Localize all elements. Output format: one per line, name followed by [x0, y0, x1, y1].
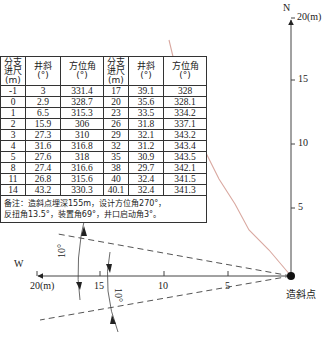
cell: 32.4 [129, 174, 164, 185]
table-row: 527.63183530.9343.5 [1, 152, 207, 163]
cell: 330.3 [61, 185, 104, 196]
table-note: 备注：造斜点埋深155m，设计方位角270°，反扭角13.5°，装置角69°，井… [1, 196, 207, 223]
cell: 318 [61, 152, 104, 163]
cell: 32.4 [129, 185, 164, 196]
cell: 31.8 [129, 119, 164, 130]
west-ticks [37, 271, 228, 276]
cell: 40.1 [104, 185, 129, 196]
header-branch-footage-left: 分支 进尺 (m) [1, 57, 26, 86]
cell: 343.5 [164, 152, 207, 163]
header-branch-footage-right: 分支 进尺 (m) [104, 57, 129, 86]
west-tick-15: 15 [94, 280, 104, 291]
cell: 43.2 [26, 185, 61, 196]
west-tick-5: 5 [225, 280, 230, 291]
cell: 334.2 [164, 108, 207, 119]
table-row: -13331.41739.1328 [1, 86, 207, 97]
cell: 27.6 [26, 152, 61, 163]
west-tick-10: 10 [158, 280, 168, 291]
cell: 17 [104, 86, 129, 97]
table-note-row: 备注：造斜点埋深155m，设计方位角270°，反扭角13.5°，装置角69°，井… [1, 196, 207, 223]
north-ticks [291, 18, 295, 208]
cell: 342.1 [164, 163, 207, 174]
cell: 23 [104, 108, 129, 119]
cell: 316.6 [61, 163, 104, 174]
cell: 328.7 [61, 97, 104, 108]
cell: 39.1 [129, 86, 164, 97]
cell: 306 [61, 119, 104, 130]
table-row: 827.4316.63829.7342.1 [1, 163, 207, 174]
west-label: W [14, 258, 23, 269]
table-row: 16.5315.32333.5334.2 [1, 108, 207, 119]
table-row: 215.93062631.8337.1 [1, 119, 207, 130]
cell: 341.3 [164, 185, 207, 196]
lower-arc-arrow-icon [106, 264, 112, 273]
cell: 29.7 [129, 163, 164, 174]
cell: 35.6 [129, 97, 164, 108]
cell: 316.8 [61, 141, 104, 152]
cell: 2 [1, 119, 26, 130]
cell: 8 [1, 163, 26, 174]
cell: 31.6 [26, 141, 61, 152]
cell: 315.3 [61, 108, 104, 119]
cell: 26 [104, 119, 129, 130]
cell: 4 [1, 141, 26, 152]
cell: 6.5 [26, 108, 61, 119]
cell: 341.5 [164, 174, 207, 185]
cell: 31.2 [129, 141, 164, 152]
cell: 38 [104, 163, 129, 174]
west-max-label: 20(m) [30, 280, 54, 291]
cell: 33.5 [129, 108, 164, 119]
header-azimuth-left: 方位角(°) [61, 57, 104, 86]
kickoff-point-label: 造斜点 [286, 286, 316, 301]
table-row: 327.33102932.1343.2 [1, 130, 207, 141]
cell: 27.3 [26, 130, 61, 141]
cell: -1 [1, 86, 26, 97]
header-azimuth-right: 方位角(°) [164, 57, 207, 86]
upper-angle-label: 10° [56, 244, 67, 258]
cell: 310 [61, 130, 104, 141]
cell: 5 [1, 152, 26, 163]
cell: 40 [104, 174, 129, 185]
north-tick-15: 15 [298, 73, 308, 84]
north-max-label: 20(m) [297, 11, 321, 22]
table-header-row: 分支 进尺 (m) 井斜(°) 方位角(°) 分支 进尺 (m) 井斜(°) 方… [1, 57, 207, 86]
cell: 1 [1, 108, 26, 119]
cell: 3 [26, 86, 61, 97]
cell: 315.6 [61, 174, 104, 185]
cell: 328.1 [164, 97, 207, 108]
lower-angle-label: 10° [113, 288, 124, 302]
north-tick-5: 5 [298, 201, 303, 212]
upper-tolerance-line [58, 234, 291, 276]
cell: 0 [1, 97, 26, 108]
cell: 343.4 [164, 141, 207, 152]
kickoff-point-marker [287, 272, 295, 280]
cell: 2.9 [26, 97, 61, 108]
table-row: 431.6316.83231.2343.4 [1, 141, 207, 152]
cell: 328 [164, 86, 207, 97]
cell: 14 [1, 185, 26, 196]
cell: 15.9 [26, 119, 61, 130]
cell: 26.8 [26, 174, 61, 185]
table-row: 02.9328.72035.6328.1 [1, 97, 207, 108]
cell: 331.4 [61, 86, 104, 97]
header-inclination-right: 井斜(°) [129, 57, 164, 86]
cell: 337.1 [164, 119, 207, 130]
cell: 11 [1, 174, 26, 185]
cell: 27.4 [26, 163, 61, 174]
survey-data-table: 分支 进尺 (m) 井斜(°) 方位角(°) 分支 进尺 (m) 井斜(°) 方… [0, 56, 207, 223]
cell: 343.2 [164, 130, 207, 141]
cell: 32 [104, 141, 129, 152]
header-inclination-left: 井斜(°) [26, 57, 61, 86]
cell: 3 [1, 130, 26, 141]
north-label: N [283, 2, 290, 13]
north-tick-10: 10 [298, 137, 308, 148]
cell: 29 [104, 130, 129, 141]
cell: 20 [104, 97, 129, 108]
table-row: 1443.2330.340.132.4341.3 [1, 185, 207, 196]
cell: 32.1 [129, 130, 164, 141]
cell: 30.9 [129, 152, 164, 163]
cell: 35 [104, 152, 129, 163]
table-row: 1126.8315.64032.4341.5 [1, 174, 207, 185]
